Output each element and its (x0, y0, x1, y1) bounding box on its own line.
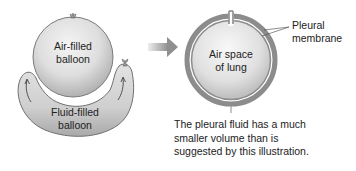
pleural-balloon-diagram: Air-filled balloon Fluid-filled balloon … (0, 0, 356, 171)
fluid-balloon-label: Fluid-filled balloon (40, 106, 110, 132)
air-balloon-label: Air-filled balloon (43, 40, 103, 66)
lung-label-line2: of lung (196, 61, 266, 74)
pleural-membrane-label: Pleural membrane (292, 19, 342, 45)
air-balloon-label-line1: Air-filled (43, 40, 103, 53)
membrane-label-line2: membrane (292, 32, 342, 45)
caption-line1: The pleural fluid has a much (174, 118, 309, 132)
air-balloon-knot-icon (70, 13, 76, 18)
lung-label-line1: Air space (196, 48, 266, 61)
lung-label: Air space of lung (196, 48, 266, 74)
air-balloon-label-line2: balloon (43, 53, 103, 66)
caption-line3: suggested by this illustration. (174, 145, 309, 159)
pleural-fluid-caption: The pleural fluid has a much smaller vol… (174, 118, 309, 159)
membrane-label-line1: Pleural (292, 19, 342, 32)
right-arrow-icon (148, 37, 178, 57)
caption-line2: smaller volume than is (174, 132, 309, 146)
fluid-balloon-label-line1: Fluid-filled (40, 106, 110, 119)
fluid-balloon-label-line2: balloon (40, 119, 110, 132)
